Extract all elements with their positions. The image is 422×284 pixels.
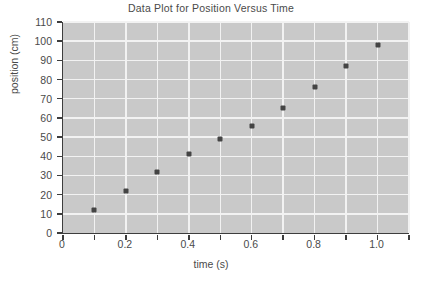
y-axis-tick-label: 110 <box>0 16 52 28</box>
data-point <box>344 64 349 69</box>
chart-title: Data Plot for Position Versus Time <box>0 2 422 14</box>
gridline-horizontal <box>63 194 409 196</box>
gridline-vertical <box>282 22 284 233</box>
data-point <box>92 207 97 212</box>
gridline-horizontal <box>63 156 409 158</box>
gridline-horizontal <box>63 79 409 81</box>
gridline-horizontal <box>63 117 409 119</box>
data-point <box>312 85 317 90</box>
gridline-vertical <box>125 22 127 233</box>
gridline-vertical <box>314 22 316 233</box>
data-point <box>281 106 286 111</box>
y-axis-tick <box>57 98 62 100</box>
y-axis-tick <box>57 21 62 23</box>
y-axis-tick <box>57 175 62 177</box>
gridline-vertical <box>408 22 410 233</box>
data-point <box>123 188 128 193</box>
gridline-horizontal <box>63 40 409 42</box>
y-axis-tick <box>57 40 62 42</box>
x-axis-tick-label: 0.8 <box>306 238 321 250</box>
gridline-horizontal <box>63 60 409 62</box>
gridline-vertical <box>157 22 159 233</box>
y-axis-tick-label: 40 <box>0 150 52 162</box>
plot-area <box>62 22 409 234</box>
x-axis-tick <box>220 235 222 240</box>
x-axis-tick-label: 0.2 <box>118 238 133 250</box>
gridline-horizontal <box>63 136 409 138</box>
y-axis-tick <box>57 194 62 196</box>
gridline-vertical <box>377 22 379 233</box>
data-point <box>218 137 223 142</box>
y-axis-tick-label: 20 <box>0 189 52 201</box>
y-axis-tick-label: 60 <box>0 112 52 124</box>
y-axis-tick-label: 80 <box>0 74 52 86</box>
gridline-horizontal <box>63 175 409 177</box>
x-axis-tick <box>94 235 96 240</box>
gridline-vertical <box>345 22 347 233</box>
x-axis-tick-label: 0.4 <box>181 238 196 250</box>
gridline-vertical <box>188 22 190 233</box>
y-axis-tick <box>57 232 62 234</box>
gridline-horizontal <box>63 213 409 215</box>
y-axis-tick <box>57 79 62 81</box>
x-axis-tick <box>282 235 284 240</box>
y-axis-tick-label: 50 <box>0 131 52 143</box>
data-point <box>375 43 380 48</box>
y-axis-tick <box>57 117 62 119</box>
gridline-vertical <box>220 22 222 233</box>
x-axis-tick-label: 0.6 <box>243 238 258 250</box>
y-axis-tick-label: 90 <box>0 54 52 66</box>
y-axis-tick <box>57 136 62 138</box>
x-axis-title: time (s) <box>0 258 422 270</box>
y-axis-tick-label: 70 <box>0 93 52 105</box>
y-axis-tick-label: 30 <box>0 169 52 181</box>
gridline-horizontal <box>63 21 409 23</box>
gridline-vertical <box>94 22 96 233</box>
x-axis-tick-label: 1.0 <box>369 238 384 250</box>
y-axis-tick-label: 10 <box>0 208 52 220</box>
data-point <box>249 123 254 128</box>
y-axis-tick-label: 100 <box>0 35 52 47</box>
y-axis-tick <box>57 213 62 215</box>
gridline-horizontal <box>63 98 409 100</box>
y-axis-tick-label: 0 <box>0 227 52 239</box>
y-axis-tick <box>57 60 62 62</box>
x-axis-tick <box>157 235 159 240</box>
data-point <box>155 169 160 174</box>
x-axis-tick <box>345 235 347 240</box>
x-axis-tick <box>408 235 410 240</box>
data-point <box>186 152 191 157</box>
y-axis-tick <box>57 156 62 158</box>
chart-figure: Data Plot for Position Versus Time posit… <box>0 0 422 284</box>
x-axis-tick-label: 0 <box>59 238 65 250</box>
